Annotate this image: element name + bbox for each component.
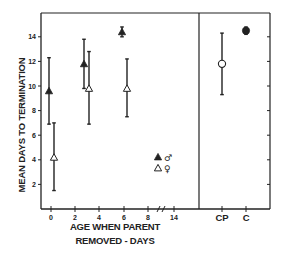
x-category-label: C [243,212,250,223]
chart: 2468101214 0246814CPC ♂♀ MEAN DAYS TO TE… [0,0,286,258]
x-axis-title-line-2: REMOVED - DAYS [75,235,154,246]
legend-symbol: ♂ [164,153,172,163]
data-point [50,123,57,191]
y-tick-label: 14 [28,33,36,40]
open-triangle-marker [154,164,161,170]
y-tick-label: 12 [28,58,36,65]
open-triangle-marker [50,154,57,160]
data-point [123,59,130,117]
filled-triangle-marker [45,87,52,93]
y-tick-label: 4 [32,156,36,163]
data-point [45,58,52,124]
y-tick-label: 10 [28,83,36,90]
data-point [80,39,87,88]
x-tick-label: 14 [170,214,178,221]
data-point [85,52,92,125]
filled-circle-marker [242,27,249,34]
x-tick-label: 8 [146,214,150,221]
y-tick-label: 6 [32,132,36,139]
legend-symbol: ♀ [164,164,171,174]
x-tick-label: 0 [49,214,53,221]
x-tick-label: 4 [97,214,101,221]
open-triangle-marker [123,85,130,91]
y-tick-label: 8 [32,107,36,114]
x-axis-title-line-1: AGE WHEN PARENT [70,221,161,232]
open-circle-marker [218,60,225,67]
data-point [218,33,225,95]
filled-triangle-marker [80,60,87,66]
data-points [45,27,249,191]
y-axis-ticks: 2468101214 [28,33,41,188]
plot-frame [41,13,270,209]
legend: ♂♀ [154,153,172,174]
filled-triangle-marker [118,28,125,34]
y-tick-label: 2 [32,181,36,188]
open-triangle-marker [85,85,92,91]
x-tick-label: 2 [73,214,77,221]
data-point [118,27,125,37]
x-tick-label: 6 [122,214,126,221]
x-category-label: CP [216,212,230,223]
data-point [242,27,249,34]
y-axis-title: MEAN DAYS TO TERMINATION [16,57,27,192]
filled-triangle-marker [154,153,161,159]
